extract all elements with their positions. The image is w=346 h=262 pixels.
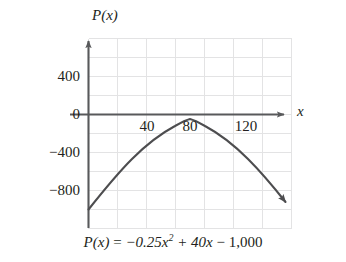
graph-canvas: [0, 0, 346, 262]
equation-term-1: −0.25x: [125, 234, 168, 250]
y-axis-title: P(x): [92, 8, 118, 23]
x-tick-label-40: 40: [133, 119, 161, 134]
y-tick-label-minus-400: −400: [10, 145, 80, 160]
x-tick-label-120: 120: [229, 119, 263, 134]
y-tick-label-400: 400: [18, 69, 80, 84]
x-tick-label-80: 80: [176, 119, 204, 134]
equation-term-2: + 40x: [177, 234, 213, 250]
equation-equals: =: [113, 234, 121, 250]
equation-caption: P(x) = −0.25x2 + 40x − 1,000: [0, 233, 346, 250]
x-axis-title: x: [297, 104, 304, 119]
equation-term-3: − 1,000: [216, 234, 262, 250]
equation-lhs: P(x): [84, 234, 110, 250]
y-tick-label-0: 0: [18, 107, 80, 122]
y-tick-label-minus-800: −800: [10, 183, 80, 198]
parabola-figure: P(x) x 400 0 −400 −800 40 80 120 P(x) = …: [0, 0, 346, 262]
